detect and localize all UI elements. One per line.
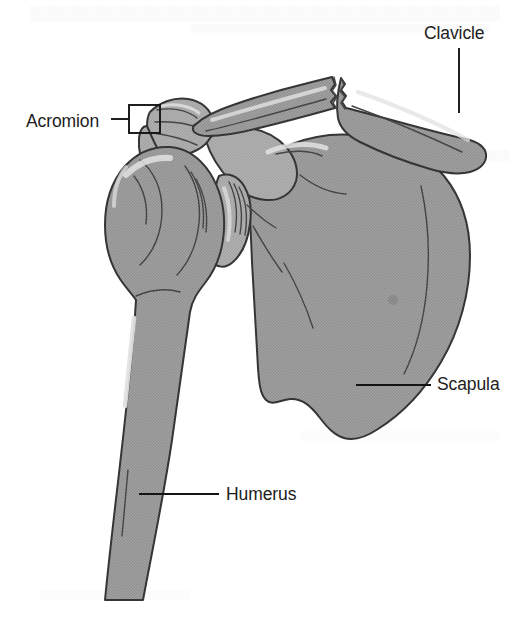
humerus-bone — [105, 147, 224, 600]
label-scapula: Scapula — [437, 374, 500, 394]
anatomy-figure: Clavicle Acromion Scapula Humerus — [0, 0, 526, 626]
scapula-bone — [206, 128, 470, 439]
label-humerus: Humerus — [226, 484, 297, 504]
label-acromion: Acromion — [26, 111, 99, 131]
label-clavicle: Clavicle — [424, 23, 484, 43]
shoulder-anatomy-illustration: Clavicle Acromion Scapula Humerus — [0, 0, 526, 626]
